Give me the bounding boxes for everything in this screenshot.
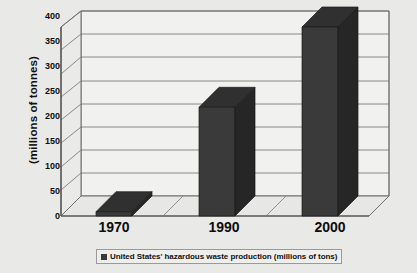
bar-1990-front [199, 107, 235, 216]
chart-legend: United States' hazardous waste productio… [96, 249, 342, 264]
bar-2000-side [338, 7, 358, 216]
legend-label-us-hazardous-waste: United States' hazardous waste productio… [110, 252, 337, 261]
bar-1990[interactable] [199, 87, 255, 216]
bar-1990-side [235, 87, 255, 216]
x-tick-label-1990: 1990 [208, 219, 239, 235]
x-tick-label-2000: 2000 [314, 219, 345, 235]
x-axis-tick-labels: 1970 1990 2000 [0, 219, 417, 239]
legend-swatch-icon [101, 254, 107, 260]
bar-chart: (millions of tonnes) 400 350 300 250 200… [0, 0, 417, 273]
bar-2000[interactable] [302, 7, 358, 216]
bar-2000-front [302, 27, 338, 216]
bar-1970-front [96, 212, 132, 216]
x-tick-label-1970: 1970 [98, 219, 129, 235]
